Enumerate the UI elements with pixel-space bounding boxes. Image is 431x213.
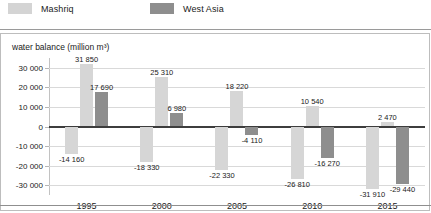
chart-page: Mashriq West Asia water balance (million… [0, 0, 431, 213]
bar[interactable] [170, 113, 183, 127]
chart-frame: water balance (million m³) 30 00020 0001… [0, 33, 430, 211]
bar[interactable] [95, 92, 108, 127]
legend-item-west-asia: West Asia [150, 3, 224, 14]
bar-group: -31 9102 470-29 440 [350, 58, 425, 195]
bar-value-label: -16 270 [310, 159, 344, 168]
y-axis-tick-label: 30 000 [0, 63, 43, 72]
bar-value-label: -22 330 [205, 171, 239, 180]
x-axis-label: 2010 [275, 201, 350, 211]
x-axis-label: 2005 [199, 201, 274, 211]
chart-legend: Mashriq West Asia [0, 0, 431, 27]
legend-swatch-icon [8, 3, 32, 14]
bar-value-label: 6 980 [160, 104, 194, 113]
bar-value-label: -31 910 [355, 190, 389, 199]
x-axis-label: 2015 [350, 201, 425, 211]
legend-label-mashriq: Mashriq [41, 4, 74, 14]
y-axis-tick-label: 10 000 [0, 102, 43, 111]
legend-swatch-icon [150, 3, 174, 14]
y-axis-tick-label: -30 000 [0, 181, 43, 190]
bar[interactable] [396, 127, 409, 185]
bar[interactable] [245, 127, 258, 135]
bar-group: -18 33025 3106 980 [124, 58, 199, 195]
y-axis-tick-label: 0 [0, 122, 43, 131]
bar-value-label: 18 220 [220, 82, 254, 91]
bar[interactable] [140, 127, 153, 163]
bar-value-label: -26 810 [280, 180, 314, 189]
bar[interactable] [215, 127, 228, 171]
bar[interactable] [291, 127, 304, 179]
bar-group: -22 33018 220-4 110 [199, 58, 274, 195]
bar-value-label: -29 440 [385, 185, 419, 194]
y-axis-tick-label: 20 000 [0, 83, 43, 92]
y-axis-tick-label: -20 000 [0, 161, 43, 170]
legend-label-west-asia: West Asia [183, 4, 224, 14]
bar[interactable] [366, 127, 379, 189]
bottom-divider [0, 205, 431, 206]
bar-group: -26 81010 540-16 270 [275, 58, 350, 195]
bar-value-label: -4 110 [235, 136, 269, 145]
y-axis-title: water balance (million m³) [12, 42, 109, 52]
y-axis-tick-label: -10 000 [0, 142, 43, 151]
bar-value-label: 17 690 [85, 83, 119, 92]
legend-divider [0, 29, 431, 30]
bar[interactable] [155, 77, 168, 127]
bar[interactable] [306, 106, 319, 127]
bar-value-label: 25 310 [145, 68, 179, 77]
legend-item-mashriq: Mashriq [8, 3, 74, 14]
bar[interactable] [321, 127, 334, 159]
bar-value-label: 2 470 [370, 113, 404, 122]
bar[interactable] [65, 127, 78, 155]
bar-value-label: -14 160 [55, 155, 89, 164]
bar-value-label: -18 330 [130, 163, 164, 172]
bar[interactable] [230, 91, 243, 127]
x-axis-label: 2000 [124, 201, 199, 211]
x-axis-label: 1995 [49, 201, 124, 211]
plot-area: 30 00020 00010 0000-10 000-20 000-30 000… [49, 58, 425, 195]
bar[interactable] [381, 122, 394, 127]
bar-value-label: 10 540 [295, 97, 329, 106]
bar-group: -14 16031 85017 690 [49, 58, 124, 195]
bar-value-label: 31 850 [70, 55, 104, 64]
bar[interactable] [80, 64, 93, 126]
